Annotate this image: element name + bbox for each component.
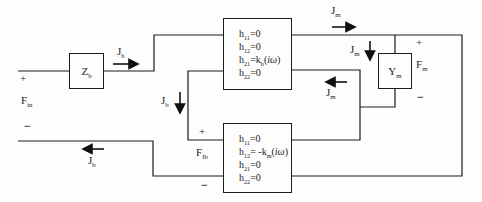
- mid-right-loop-wire: [292, 70, 360, 140]
- ffb-minus-sign: −: [201, 178, 207, 193]
- top-h11-equation: h11=0: [239, 27, 291, 40]
- jm-right-current-label: Jm: [331, 4, 341, 16]
- input-bottom-rail: [18, 141, 223, 176]
- bottom-h22-equation: h22=0: [239, 171, 291, 184]
- bottom-h21-equation: h21=0: [239, 158, 291, 171]
- fin-label: Fin: [21, 94, 32, 106]
- fin-minus-sign: −: [24, 119, 30, 134]
- ym-label: Ym: [388, 65, 401, 77]
- fm-plus-sign: +: [416, 36, 422, 48]
- jm-left-current-label: Jm: [326, 86, 336, 98]
- jm-down-current-label: Jm: [350, 43, 360, 55]
- jm-right-arrow-icon: [332, 23, 355, 32]
- feedback-left-wire: [188, 71, 223, 140]
- jb-left-current-label: Jb: [88, 154, 96, 166]
- outer-right-loop-wire: [292, 35, 462, 176]
- fm-label: Fm: [416, 58, 427, 70]
- fin-plus-sign: +: [20, 72, 26, 84]
- ffb-plus-sign: +: [199, 125, 205, 137]
- two-port-transducer-block-diagram: Zb h11=0 h12=0 h21=kb(iω) h22=0 h11=0 h1…: [0, 0, 482, 202]
- jb-down-current-label: Jb: [161, 94, 169, 106]
- zb-label: Zb: [81, 65, 91, 77]
- bottom-h12-equation: h12= -km(iω): [239, 145, 291, 158]
- jb-left-arrow-icon: [83, 145, 104, 154]
- jb-right-current-label: Jb: [117, 45, 125, 57]
- fm-minus-sign: −: [417, 90, 423, 105]
- ym-bottom-stub-wire: [360, 89, 395, 107]
- top-h21-equation: h21=kb(iω): [239, 53, 291, 66]
- jb-down-arrow-icon: [176, 92, 185, 113]
- jb-right-arrow-icon: [113, 60, 138, 69]
- top-hparameter-block: h11=0 h12=0 h21=kb(iω) h22=0: [223, 18, 292, 90]
- bottom-hparameter-block: h11=0 h12= -km(iω) h21=0 h22=0: [223, 123, 292, 193]
- ym-admittance-block: Ym: [378, 53, 412, 89]
- bottom-h11-equation: h11=0: [239, 132, 291, 145]
- ffb-label: Ffb: [196, 146, 208, 158]
- top-h22-equation: h22=0: [239, 66, 291, 79]
- zb-impedance-block: Zb: [69, 53, 104, 89]
- jm-down-arrow-icon: [366, 41, 375, 60]
- top-h12-equation: h12=0: [239, 40, 291, 53]
